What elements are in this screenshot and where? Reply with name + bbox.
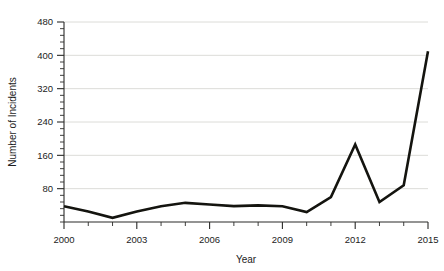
- x-tick-label-2012: 2012: [345, 234, 366, 245]
- y-tick-label-240: 240: [37, 116, 53, 127]
- x-tick-label-2009: 2009: [272, 234, 293, 245]
- y-axis-title: Number of Incidents: [7, 77, 18, 167]
- x-axis-title: Year: [236, 254, 257, 265]
- chart-background: [0, 0, 444, 271]
- y-tick-label-80: 80: [42, 183, 53, 194]
- y-tick-label-320: 320: [37, 83, 53, 94]
- x-tick-label-2000: 2000: [53, 234, 74, 245]
- chart-svg: 80160240320400480 2000200320062009201220…: [0, 0, 444, 271]
- x-tick-label-2006: 2006: [199, 234, 220, 245]
- x-tick-label-2003: 2003: [126, 234, 147, 245]
- y-tick-label-480: 480: [37, 16, 53, 27]
- line-chart-figure: 80160240320400480 2000200320062009201220…: [0, 0, 444, 271]
- y-tick-label-160: 160: [37, 150, 53, 161]
- x-tick-label-2015: 2015: [417, 234, 438, 245]
- y-tick-label-400: 400: [37, 50, 53, 61]
